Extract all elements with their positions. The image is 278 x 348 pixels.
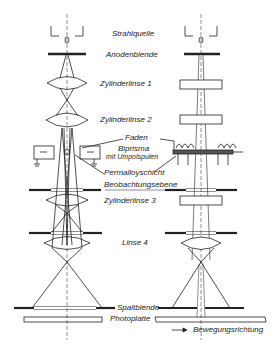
electrode-left-icon xyxy=(34,146,54,159)
biprism-icon xyxy=(173,150,233,154)
coil-left-icon xyxy=(176,144,194,148)
label-faden: Faden xyxy=(125,133,148,142)
arrow-right-icon xyxy=(183,328,187,332)
label-permalloyschicht: Permalloyschicht xyxy=(104,168,164,177)
label-mit-umpolspulen: mit Umpolspulen xyxy=(106,153,158,160)
label-beobachtungsebene: Beobachtungsebene xyxy=(104,180,177,189)
label-anodenblende: Anodenblende xyxy=(106,50,158,59)
coil-right-icon xyxy=(218,144,236,148)
right-lens-4-icon xyxy=(181,237,221,250)
label-zylinderlinse-2: Zylinderlinse 2 xyxy=(100,115,152,124)
right-column xyxy=(155,14,266,340)
label-strahlquelle: Strahlquelle xyxy=(112,29,154,38)
label-linse-4: Linse 4 xyxy=(122,238,148,247)
cyl-lens-3-icon xyxy=(180,196,222,205)
label-zylinderlinse-1: Zylinderlinse 1 xyxy=(100,79,152,88)
label-photoplatte: Photoplatte xyxy=(110,314,150,323)
label-biprisma: Biprisma xyxy=(118,144,149,153)
cyl-lens-2-icon xyxy=(180,115,222,124)
label-bewegungsrichtung: Bewegungsrichtung xyxy=(193,325,263,334)
label-spaltblende: Spaltblende xyxy=(117,303,159,312)
label-zylinderlinse-3: Zylinderlinse 3 xyxy=(104,196,156,205)
cyl-lens-1-icon xyxy=(180,80,222,89)
left-column xyxy=(14,14,115,340)
